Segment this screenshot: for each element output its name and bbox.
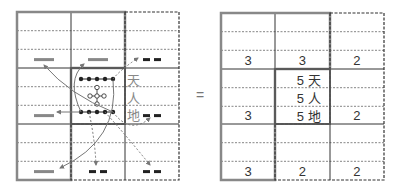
magic-square-diagram: 天 人 地 = (0, 0, 397, 191)
center-value-earth: 5 (297, 109, 304, 124)
dot (103, 77, 107, 81)
open-dot (95, 85, 99, 89)
dot (95, 77, 99, 81)
cell-value: 3 (245, 53, 252, 68)
yin-line (143, 114, 150, 117)
dot (79, 77, 83, 81)
cell-value: 3 (245, 164, 252, 179)
yin-line (154, 114, 161, 117)
arrow-to-bottom-middle (89, 112, 96, 165)
yin-line (154, 58, 161, 61)
center-label-human: 人 (308, 91, 321, 106)
right-grid: 33232322 5 天 5 人 5 地 (221, 13, 384, 180)
yang-line (34, 58, 54, 61)
yang-line (34, 114, 54, 117)
yin-line (89, 170, 96, 173)
dot (87, 77, 91, 81)
yin-line (143, 58, 150, 61)
center-dots (79, 77, 115, 114)
center-label-heaven: 天 (308, 73, 321, 88)
center-value-human: 5 (297, 91, 304, 106)
yang-line (88, 58, 108, 61)
open-dot (95, 94, 99, 98)
yang-line (34, 170, 54, 173)
yin-line (143, 170, 150, 173)
label-human: 人 (127, 91, 140, 106)
yin-line (100, 170, 107, 173)
arrow-to-top-middle (74, 64, 84, 112)
open-dot (102, 94, 106, 98)
open-dot (88, 94, 92, 98)
dot (95, 110, 99, 114)
left-grid: 天 人 地 (17, 12, 179, 180)
label-heaven: 天 (127, 73, 140, 88)
center-value-heaven: 5 (297, 73, 304, 88)
cell-value: 2 (299, 164, 306, 179)
cell-value: 2 (353, 53, 360, 68)
label-earth: 地 (127, 108, 140, 123)
cell-value: 2 (353, 108, 360, 123)
equals-sign: = (196, 87, 204, 103)
cell-value: 3 (299, 53, 306, 68)
cell-value: 2 (353, 164, 360, 179)
yin-line (154, 170, 161, 173)
center-label-earth: 地 (308, 109, 321, 124)
cell-value: 3 (245, 108, 252, 123)
